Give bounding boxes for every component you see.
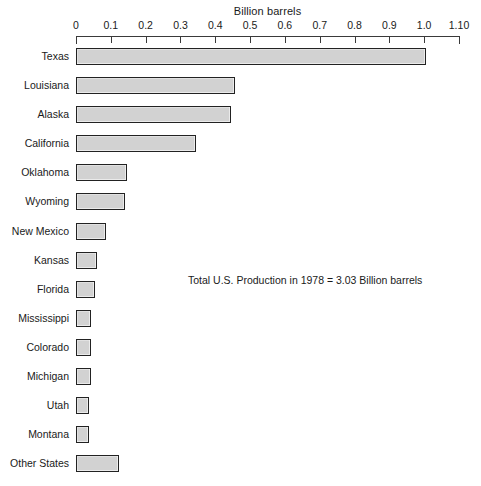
bar-rows: TexasLouisianaAlaskaCaliforniaOklahomaWy… bbox=[0, 45, 481, 481]
bar-category-label: Florida bbox=[37, 283, 69, 295]
bar-row: Montana bbox=[0, 423, 481, 452]
bar-row: Michigan bbox=[0, 365, 481, 394]
bar-row: California bbox=[0, 132, 481, 161]
x-axis-tick-mark bbox=[111, 36, 112, 43]
bar bbox=[76, 397, 89, 414]
bar bbox=[76, 455, 119, 472]
x-axis-tick-label: 1.0 bbox=[417, 19, 432, 31]
x-axis-tick-label: 0 bbox=[73, 19, 79, 31]
x-axis-tick-mark bbox=[424, 36, 425, 43]
x-axis-tick-label: 0.2 bbox=[138, 19, 153, 31]
bar bbox=[76, 77, 235, 94]
bar-row: Colorado bbox=[0, 336, 481, 365]
x-axis-tick-mark bbox=[459, 36, 460, 44]
bar bbox=[76, 164, 127, 181]
bar bbox=[76, 106, 231, 123]
bar-category-label: Colorado bbox=[26, 341, 69, 353]
bar-row: Texas bbox=[0, 45, 481, 74]
bar-row: Wyoming bbox=[0, 190, 481, 219]
x-axis-tick-mark bbox=[285, 36, 286, 43]
x-axis-tick-label: 1.10 bbox=[449, 19, 469, 31]
x-axis-tick-label: 0.7 bbox=[312, 19, 327, 31]
x-axis-tick-label: 0.1 bbox=[104, 19, 119, 31]
x-axis-tick-mark bbox=[250, 36, 251, 43]
bar bbox=[76, 193, 125, 210]
x-axis-tick-label: 0.8 bbox=[347, 19, 362, 31]
x-axis-title: Billion barrels bbox=[76, 5, 459, 17]
x-axis-tick-mark bbox=[355, 36, 356, 43]
x-axis-tick-mark bbox=[320, 36, 321, 43]
x-axis-tick-mark bbox=[215, 36, 216, 43]
bar-row: Utah bbox=[0, 394, 481, 423]
x-axis-line bbox=[76, 36, 459, 37]
x-axis-tick-mark bbox=[180, 36, 181, 43]
x-axis-tick-mark bbox=[76, 36, 77, 44]
bar bbox=[76, 426, 89, 443]
bar bbox=[76, 368, 91, 385]
bar-row: Louisiana bbox=[0, 74, 481, 103]
bar-category-label: Wyoming bbox=[25, 195, 69, 207]
bar-category-label: Kansas bbox=[34, 254, 69, 266]
total-production-annotation: Total U.S. Production in 1978 = 3.03 Bil… bbox=[188, 274, 422, 286]
bar-category-label: Montana bbox=[28, 428, 69, 440]
bar bbox=[76, 135, 196, 152]
bar bbox=[76, 339, 91, 356]
bar bbox=[76, 281, 95, 298]
x-axis-tick-label: 0.5 bbox=[243, 19, 258, 31]
bar-row: Mississippi bbox=[0, 307, 481, 336]
bar-category-label: Utah bbox=[47, 399, 69, 411]
bar-category-label: New Mexico bbox=[12, 225, 69, 237]
bar-category-label: Alaska bbox=[37, 108, 69, 120]
bar-category-label: California bbox=[25, 137, 69, 149]
x-axis-tick-label: 0.9 bbox=[382, 19, 397, 31]
x-axis-tick-label: 0.6 bbox=[278, 19, 293, 31]
x-axis-tick-mark bbox=[389, 36, 390, 43]
bar-category-label: Texas bbox=[42, 50, 69, 62]
bar bbox=[76, 252, 97, 269]
bar-row: Oklahoma bbox=[0, 161, 481, 190]
bar-category-label: Oklahoma bbox=[21, 166, 69, 178]
bar bbox=[76, 223, 106, 240]
bar bbox=[76, 48, 426, 65]
bar-row: Other States bbox=[0, 452, 481, 481]
bar bbox=[76, 310, 91, 327]
x-axis-tick-labels: 00.10.20.30.40.50.60.70.80.91.01.10 bbox=[0, 19, 481, 33]
bar-chart: Billion barrels 00.10.20.30.40.50.60.70.… bbox=[0, 0, 481, 486]
x-axis-tick-label: 0.4 bbox=[208, 19, 223, 31]
bar-category-label: Michigan bbox=[27, 370, 69, 382]
bar-row: New Mexico bbox=[0, 220, 481, 249]
bar-category-label: Louisiana bbox=[24, 79, 69, 91]
bar-row: Alaska bbox=[0, 103, 481, 132]
bar-category-label: Other States bbox=[10, 457, 69, 469]
x-axis-tick-mark bbox=[146, 36, 147, 43]
x-axis-tick-label: 0.3 bbox=[173, 19, 188, 31]
bar-category-label: Mississippi bbox=[18, 312, 69, 324]
